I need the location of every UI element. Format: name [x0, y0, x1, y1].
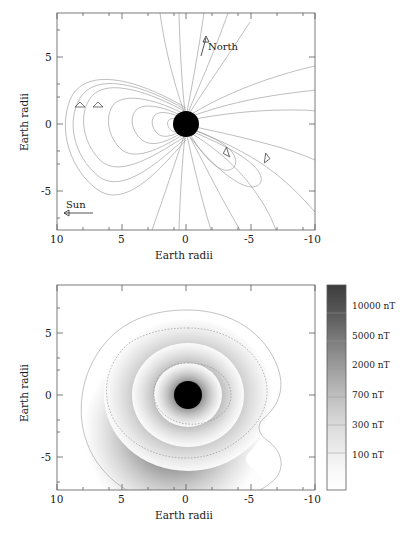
top-yaxis-label: Earth radii	[18, 92, 30, 152]
bottom-ytick-0: 0	[45, 389, 52, 401]
top-ytick-5: 5	[45, 51, 52, 63]
bottom-ytick-5: 5	[45, 327, 52, 339]
colorbar-label-300: 300 nT	[352, 420, 384, 430]
colorbar-label-100: 100 nT	[352, 450, 384, 460]
bottom-xtick-m10: -10	[304, 493, 321, 505]
top-panel-svg	[0, 0, 411, 268]
top-xtick-0: 0	[182, 233, 189, 245]
bottom-xtick-10: 10	[50, 493, 63, 505]
figure-root: North Sun 10 5 0 -5 -10 5 0 -5 Earth rad…	[0, 0, 411, 538]
top-xtick-10: 10	[50, 233, 63, 245]
earth-disk-bottom	[174, 381, 202, 409]
earth-disk-top	[173, 111, 199, 137]
top-ytick-m5: -5	[41, 185, 51, 197]
sun-annotation-label: Sun	[66, 199, 86, 210]
colorbar-gradient	[327, 285, 346, 490]
top-ytick-0: 0	[45, 118, 52, 130]
colorbar-label-2000: 2000 nT	[352, 360, 390, 370]
bottom-yaxis-label: Earth radii	[18, 363, 30, 423]
top-panel-field-lines: North Sun 10 5 0 -5 -10 5 0 -5 Earth rad…	[0, 0, 411, 268]
bottom-ytick-m5: -5	[41, 451, 51, 463]
colorbar-label-700: 700 nT	[352, 390, 384, 400]
bottom-xtick-m5: -5	[244, 493, 254, 505]
bottom-panel-magnitude: 10 5 0 -5 -10 5 0 -5 Earth radii Earth r…	[0, 268, 411, 538]
bottom-xaxis-label: Earth radii	[155, 509, 213, 521]
top-xaxis-label: Earth radii	[155, 249, 213, 261]
top-xtick-m10: -10	[304, 233, 321, 245]
north-annotation-label: North	[208, 41, 238, 52]
bottom-xtick-5: 5	[118, 493, 125, 505]
colorbar-label-10000: 10000 nT	[352, 301, 395, 311]
sun-arrow-icon	[64, 210, 93, 216]
bottom-xtick-0: 0	[182, 493, 189, 505]
top-xtick-m5: -5	[244, 233, 254, 245]
top-xtick-5: 5	[118, 233, 125, 245]
colorbar-label-5000: 5000 nT	[352, 331, 390, 341]
